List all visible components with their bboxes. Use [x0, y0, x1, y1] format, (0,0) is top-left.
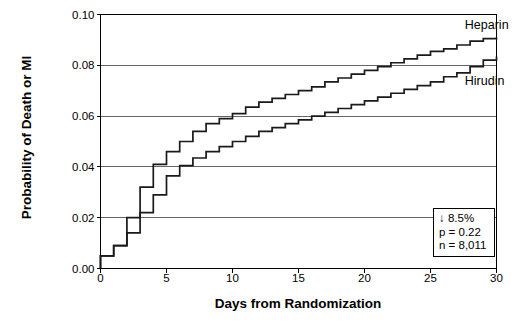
annotation-reduction: ↓ 8.5%: [439, 212, 494, 226]
annotation-stats-box: ↓ 8.5% p = 0.22 n = 8,011: [433, 208, 495, 257]
plot-area: [0, 0, 518, 325]
kaplan-meier-chart: Probability of Death or MI Days from Ran…: [0, 0, 518, 325]
series-label-hirudin: Hirudin: [465, 74, 505, 88]
annotation-pvalue: p = 0.22: [439, 226, 494, 240]
annotation-sample-size: n = 8,011: [439, 239, 494, 253]
series-label-heparin: Heparin: [465, 18, 509, 32]
